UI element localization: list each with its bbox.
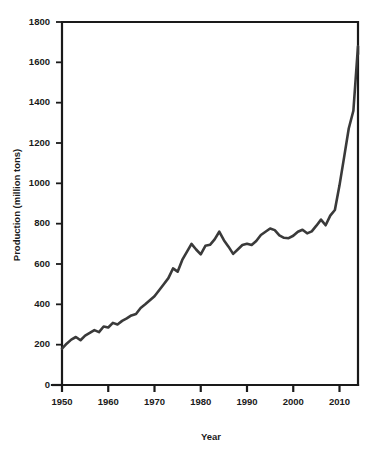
y-axis-ticks — [52, 22, 62, 385]
y-axis-tick-labels: 020040060080010001200140016001800 — [29, 16, 50, 390]
y-tick-label-1400: 1400 — [29, 96, 50, 107]
y-tick-label-1000: 1000 — [29, 177, 50, 188]
y-tick-label-1200: 1200 — [29, 137, 50, 148]
data-series-group — [62, 46, 358, 349]
x-tick-label-1990: 1990 — [236, 396, 257, 407]
x-tick-label-1950: 1950 — [51, 396, 72, 407]
y-tick-label-1800: 1800 — [29, 16, 50, 27]
x-axis-tick-labels: 1950196019701980199020002010 — [51, 396, 350, 407]
x-tick-label-1980: 1980 — [190, 396, 211, 407]
x-tick-label-2000: 2000 — [283, 396, 304, 407]
x-tick-label-1960: 1960 — [98, 396, 119, 407]
y-tick-label-800: 800 — [34, 217, 50, 228]
production-series-line — [62, 46, 358, 349]
y-axis-title: Production (million tons) — [11, 149, 22, 261]
y-tick-label-600: 600 — [34, 258, 50, 269]
y-tick-label-400: 400 — [34, 298, 50, 309]
x-axis-title: Year — [201, 431, 221, 442]
x-tick-label-1970: 1970 — [144, 396, 165, 407]
production-line-chart: 020040060080010001200140016001800 195019… — [0, 0, 374, 452]
y-tick-label-0: 0 — [45, 379, 50, 390]
chart-canvas: 020040060080010001200140016001800 195019… — [0, 0, 374, 452]
y-tick-label-200: 200 — [34, 338, 50, 349]
axis-frame — [62, 22, 358, 385]
y-tick-label-1600: 1600 — [29, 56, 50, 67]
x-tick-label-2010: 2010 — [329, 396, 350, 407]
